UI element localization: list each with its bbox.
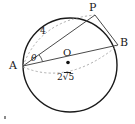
segment-chord-PB bbox=[95, 15, 118, 45]
chord-ap-length-label: 4 bbox=[40, 27, 46, 36]
radical-overbar bbox=[64, 72, 71, 73]
radicand: 5 bbox=[68, 72, 74, 82]
circle-diagram-svg bbox=[0, 0, 135, 124]
radius-length-label: 2√5 bbox=[57, 72, 74, 82]
angle-arc-theta bbox=[39, 55, 43, 62]
angle-theta-label: θ bbox=[31, 54, 36, 63]
point-label-P: P bbox=[89, 2, 96, 13]
point-label-A: A bbox=[9, 60, 17, 71]
center-label-O: O bbox=[63, 48, 71, 58]
geometry-figure-canvas: A B P O 4 θ 2√5 bbox=[0, 0, 135, 124]
point-label-B: B bbox=[120, 37, 128, 48]
center-point-dot bbox=[66, 61, 70, 65]
page-speck-artifact bbox=[4, 116, 6, 119]
